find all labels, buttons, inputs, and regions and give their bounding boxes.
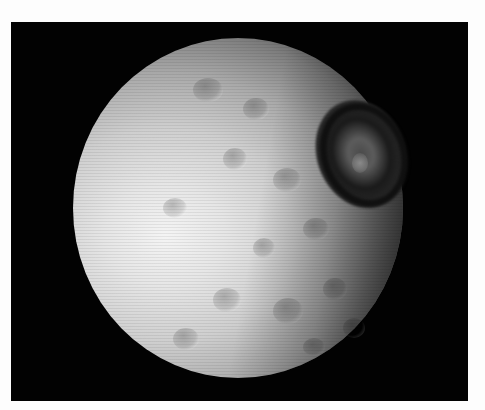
moon-disk	[73, 38, 403, 378]
photo-frame	[11, 22, 468, 401]
central-peak	[352, 153, 368, 173]
scanlines	[73, 38, 403, 378]
